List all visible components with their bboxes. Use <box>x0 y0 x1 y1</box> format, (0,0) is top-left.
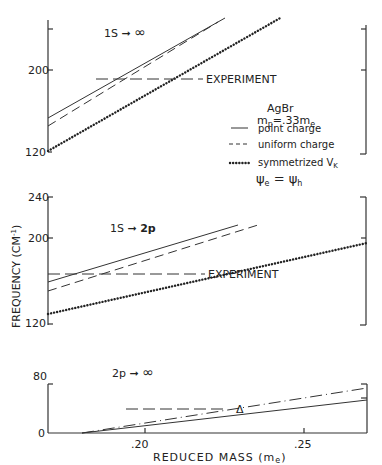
legend-point-charge: point charge <box>258 123 321 134</box>
x-tick-label-20: .20 <box>131 438 149 451</box>
top-ytick-120: 120 <box>25 146 46 159</box>
mid-experiment-label: EXPERIMENT <box>208 268 279 281</box>
bottom-panel: 80 0 2p ➞ ∞ Δ .20 .25 REDUCED MASS (me) <box>33 364 367 465</box>
bot-transition-label: 2p ➞ ∞ <box>112 364 154 380</box>
mid-transition-label: 1S ➞ 2p <box>110 222 156 235</box>
legend-uniform-charge: uniform charge <box>258 139 334 150</box>
legend: AgBr mp=.33me point charge uniform charg… <box>229 102 338 188</box>
mid-ytick-200: 200 <box>28 232 49 245</box>
middle-panel: 240 200 120 1S ➞ 2p EXPERIMENT FREQUENCY… <box>10 191 367 330</box>
bot-point-charge-line <box>82 400 367 433</box>
bot-symmetrized-line <box>82 388 367 433</box>
bot-ytick-0: 0 <box>38 427 45 440</box>
y-axis-label: FREQUENCY (CM-1) <box>10 225 23 328</box>
mid-ytick-120: 120 <box>25 317 46 330</box>
bot-delta-label: Δ <box>236 403 244 416</box>
x-axis-label: REDUCED MASS (me) <box>153 451 286 465</box>
top-ytick-200: 200 <box>28 64 49 77</box>
x-tick-label-25: .25 <box>294 438 312 451</box>
top-transition-label: 1S ➞ ∞ <box>104 24 146 40</box>
bot-ytick-80: 80 <box>33 370 47 383</box>
mid-ytick-240: 240 <box>28 191 49 204</box>
top-panel: 200 120 1S ➞ ∞ EXPERIMENT <box>25 17 366 159</box>
figure: 200 120 1S ➞ ∞ EXPERIMENT AgBr mp=.33me … <box>0 0 382 465</box>
legend-psi: ψe = ψh <box>256 171 302 188</box>
legend-symmetrized: symmetrized VK <box>258 157 338 170</box>
top-experiment-label: EXPERIMENT <box>206 73 277 86</box>
